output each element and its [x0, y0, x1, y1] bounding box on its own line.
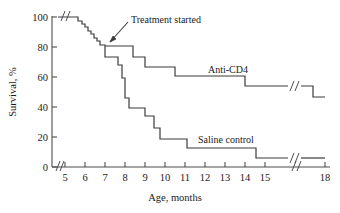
- y-tick-label-60: 60: [38, 72, 49, 83]
- y-tick-label-100: 100: [32, 12, 48, 23]
- x-tick-label-8: 8: [122, 172, 127, 183]
- x-tick-label-11: 11: [180, 172, 190, 183]
- x-tick-label-13: 13: [220, 172, 231, 183]
- x-tick-label-18: 18: [320, 172, 331, 183]
- x-tick-label-12: 12: [200, 172, 211, 183]
- y-tick-label-20: 20: [38, 132, 49, 143]
- x-tick-label-6: 6: [82, 172, 87, 183]
- x-tick-label-5: 5: [62, 172, 67, 183]
- series-label-saline-control: Saline control: [198, 134, 254, 145]
- survival-chart-figure: 0 20 40 60 80 100 5 6 7 8 9: [0, 0, 340, 213]
- chart-svg: 0 20 40 60 80 100 5 6 7 8 9: [0, 0, 340, 213]
- x-tick-label-7: 7: [102, 172, 107, 183]
- y-tick-label-0: 0: [43, 162, 48, 173]
- y-tick-label-40: 40: [38, 102, 49, 113]
- y-axis-title: Survival, %: [7, 67, 18, 117]
- y-tick-label-80: 80: [38, 42, 49, 53]
- x-tick-label-14: 14: [240, 172, 251, 183]
- series-label-anti-cd4: Anti-CD4: [208, 64, 248, 75]
- treatment-started-label: Treatment started: [131, 14, 201, 25]
- x-tick-label-15: 15: [260, 172, 271, 183]
- x-axis-title: Age, months: [148, 192, 202, 203]
- x-tick-label-10: 10: [160, 172, 171, 183]
- x-tick-label-9: 9: [142, 172, 147, 183]
